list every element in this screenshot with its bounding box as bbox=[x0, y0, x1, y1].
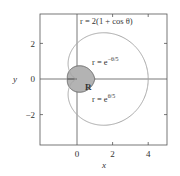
x-tick-label-0: 0 bbox=[75, 149, 80, 159]
spiral-neg-label: r = e−θ/5 bbox=[92, 56, 119, 67]
x-tick-label-4: 4 bbox=[146, 149, 151, 159]
region-r-label: R bbox=[85, 82, 92, 92]
y-tick-label-2: 2 bbox=[31, 39, 36, 49]
x-axis-label: x bbox=[101, 160, 106, 170]
cardioid-label: r = 2(1 + cos θ) bbox=[80, 16, 133, 26]
y-tick-label-neg2: −2 bbox=[25, 110, 35, 120]
x-ticks bbox=[113, 14, 149, 145]
y-axis-label: y bbox=[12, 74, 17, 84]
spiral-pos-label: r = eθ/5 bbox=[92, 93, 115, 104]
polar-curves-chart: 0 2 4 2 0 −2 x y r = 2(1 + cos θ) r = e−… bbox=[0, 0, 180, 176]
y-tick-label-0: 0 bbox=[31, 74, 36, 84]
x-tick-label-2: 2 bbox=[110, 149, 115, 159]
